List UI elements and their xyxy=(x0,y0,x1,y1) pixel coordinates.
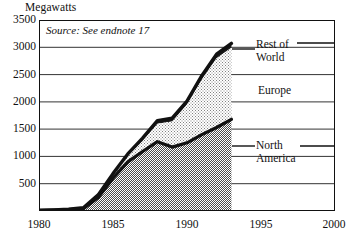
series-label-rest-of-world-line2: World xyxy=(256,51,289,64)
x-tick-1990: 1990 xyxy=(167,219,207,231)
x-tick-2000: 2000 xyxy=(314,219,351,231)
y-tick-3000: 3000 xyxy=(2,41,36,53)
y-tick-1000: 1000 xyxy=(2,150,36,162)
stacked-areas xyxy=(39,43,231,211)
y-tick-1500: 1500 xyxy=(2,123,36,135)
y-tick-500: 500 xyxy=(2,178,36,190)
chart-figure: Megawatts 3500 3000 2500 2000 1500 1000 … xyxy=(0,0,351,249)
y-tick-3500: 3500 xyxy=(2,14,36,26)
y-axis-tick-labels: 3500 3000 2500 2000 1500 1000 500 xyxy=(0,0,36,249)
series-label-north-america-line2: America xyxy=(256,152,296,165)
series-label-europe: Europe xyxy=(258,84,291,97)
series-label-rest-of-world: Rest of World xyxy=(256,38,289,63)
x-tick-1995: 1995 xyxy=(241,219,281,231)
chart-svg xyxy=(39,20,335,211)
series-label-north-america-line1: North xyxy=(256,139,296,152)
series-label-north-america: North America xyxy=(256,139,296,164)
series-label-rest-of-world-line1: Rest of xyxy=(256,38,289,51)
y-tick-2000: 2000 xyxy=(2,96,36,108)
plot-area xyxy=(39,20,335,211)
y-tick-2500: 2500 xyxy=(2,69,36,81)
x-tick-1985: 1985 xyxy=(93,219,133,231)
x-tick-1980: 1980 xyxy=(19,219,59,231)
source-note: Source: See endnote 17 xyxy=(46,24,149,36)
